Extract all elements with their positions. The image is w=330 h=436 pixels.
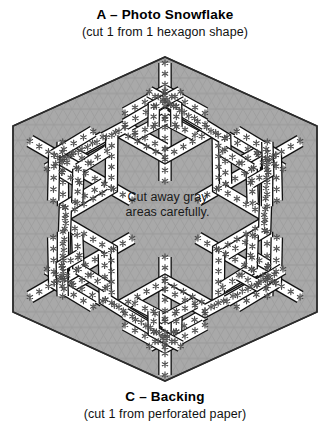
bottom-title: C – Backing (0, 389, 330, 404)
template-sheet: A – Photo Snowflake (cut 1 from 1 hexago… (0, 0, 330, 436)
snowflake-figure (0, 0, 330, 436)
bottom-subtitle: (cut 1 from perforated paper) (0, 407, 330, 421)
snowflake-svg (0, 0, 330, 436)
